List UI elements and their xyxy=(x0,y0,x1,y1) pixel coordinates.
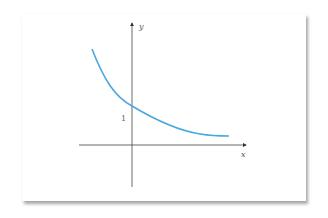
y-axis-label: y xyxy=(138,22,144,31)
x-axis-label: x xyxy=(241,150,246,159)
exponential-curve xyxy=(92,49,229,136)
graph: y x 1 xyxy=(0,0,328,218)
y-intercept-label: 1 xyxy=(121,114,126,123)
